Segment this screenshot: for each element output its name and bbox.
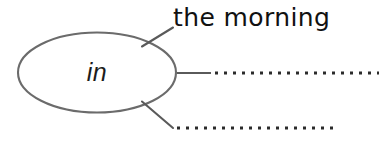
center-node-label: in <box>17 32 177 113</box>
branch-top-label[interactable]: the morning <box>173 5 330 30</box>
diagram-canvas: in the morning <box>0 0 387 144</box>
